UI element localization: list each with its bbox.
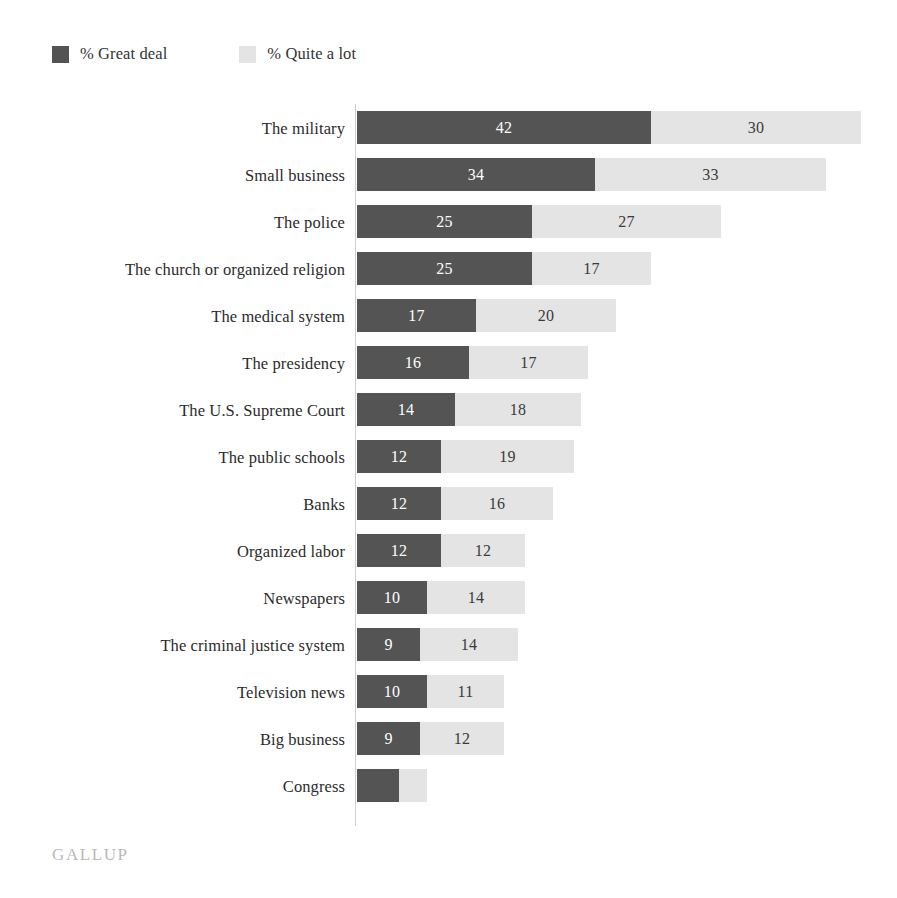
bar-value-quite-a-lot: 12: [475, 543, 491, 559]
bar-segment-great-deal: 14: [357, 393, 455, 426]
bar-value-great-deal: 9: [384, 731, 392, 747]
bar-value-quite-a-lot: 14: [461, 637, 477, 653]
legend-item-quite-a-lot: % Quite a lot: [239, 44, 356, 64]
bar-segment-great-deal: 12: [357, 440, 441, 473]
bar-row: The public schools1219: [0, 433, 897, 480]
bar-value-great-deal: 12: [391, 496, 407, 512]
bar-segment-quite-a-lot: 12: [441, 534, 525, 567]
bar-value-quite-a-lot: 33: [702, 167, 718, 183]
bar-value-quite-a-lot: 17: [583, 261, 599, 277]
bar-segment-great-deal: [357, 769, 399, 802]
bar-segment-great-deal: 12: [357, 534, 441, 567]
bar-value-quite-a-lot: 17: [520, 355, 536, 371]
category-label: The medical system: [55, 305, 345, 326]
bar-segment-quite-a-lot: 17: [532, 252, 651, 285]
bar-row: Television news1011: [0, 668, 897, 715]
bar-segment-great-deal: 10: [357, 675, 427, 708]
bar-segment-great-deal: 9: [357, 628, 420, 661]
category-label: The police: [55, 211, 345, 232]
category-label: The criminal justice system: [55, 634, 345, 655]
bar-value-quite-a-lot: 16: [489, 496, 505, 512]
bar-segment-quite-a-lot: [399, 769, 427, 802]
bar-value-great-deal: 25: [436, 261, 452, 277]
bar-segment-quite-a-lot: 16: [441, 487, 553, 520]
bar-row: The medical system1720: [0, 292, 897, 339]
gallup-confidence-chart: % Great deal % Quite a lot The military4…: [0, 0, 897, 898]
category-label: Organized labor: [55, 540, 345, 561]
bar-segment-quite-a-lot: 30: [651, 111, 861, 144]
bar-row: The U.S. Supreme Court1418: [0, 386, 897, 433]
category-label: Big business: [55, 728, 345, 749]
bar-segment-quite-a-lot: 12: [420, 722, 504, 755]
bar-row: Big business912: [0, 715, 897, 762]
bar-segment-great-deal: 12: [357, 487, 441, 520]
bar-segment-great-deal: 10: [357, 581, 427, 614]
stacked-bar: 1720: [357, 299, 616, 332]
bar-value-quite-a-lot: 20: [538, 308, 554, 324]
stacked-bar: 914: [357, 628, 518, 661]
gallup-brand-label: GALLUP: [52, 845, 129, 865]
category-label: Congress: [55, 775, 345, 796]
bar-value-quite-a-lot: 18: [510, 402, 526, 418]
stacked-bar: 3433: [357, 158, 826, 191]
bar-segment-quite-a-lot: 14: [420, 628, 518, 661]
bar-value-quite-a-lot: 14: [468, 590, 484, 606]
bar-row: The police2527: [0, 198, 897, 245]
bar-value-quite-a-lot: 19: [499, 449, 515, 465]
bar-value-great-deal: 17: [408, 308, 424, 324]
bar-segment-great-deal: 34: [357, 158, 595, 191]
bar-value-great-deal: 25: [436, 214, 452, 230]
bar-segment-great-deal: 16: [357, 346, 469, 379]
stacked-bar: 2527: [357, 205, 721, 238]
bar-value-great-deal: 12: [391, 543, 407, 559]
chart-legend: % Great deal % Quite a lot: [52, 44, 356, 64]
bar-segment-great-deal: 17: [357, 299, 476, 332]
bar-value-quite-a-lot: 30: [748, 120, 764, 136]
bar-segment-great-deal: 9: [357, 722, 420, 755]
bar-row: Small business3433: [0, 151, 897, 198]
bar-segment-quite-a-lot: 17: [469, 346, 588, 379]
category-label: The presidency: [55, 352, 345, 373]
stacked-bar: 1418: [357, 393, 581, 426]
category-label: Banks: [55, 493, 345, 514]
bar-row: The military4230: [0, 104, 897, 151]
bar-segment-quite-a-lot: 11: [427, 675, 504, 708]
bar-value-quite-a-lot: 27: [618, 214, 634, 230]
bar-segment-great-deal: 42: [357, 111, 651, 144]
stacked-bar: 1014: [357, 581, 525, 614]
bar-row: Banks1216: [0, 480, 897, 527]
category-label: Small business: [55, 164, 345, 185]
stacked-bar: 1212: [357, 534, 525, 567]
bar-row: Congress: [0, 762, 897, 809]
bar-value-quite-a-lot: 11: [458, 684, 474, 700]
legend-swatch-great-deal-icon: [52, 46, 69, 63]
category-label: The U.S. Supreme Court: [55, 399, 345, 420]
bar-segment-quite-a-lot: 14: [427, 581, 525, 614]
bar-row: The criminal justice system914: [0, 621, 897, 668]
legend-label-quite-a-lot: % Quite a lot: [267, 44, 356, 64]
bar-value-great-deal: 9: [384, 637, 392, 653]
legend-swatch-quite-a-lot-icon: [239, 46, 256, 63]
bar-segment-quite-a-lot: 20: [476, 299, 616, 332]
category-label: The church or organized religion: [55, 258, 345, 279]
bar-segment-great-deal: 25: [357, 205, 532, 238]
bar-value-great-deal: 14: [398, 402, 414, 418]
bar-segment-quite-a-lot: 33: [595, 158, 826, 191]
legend-item-great-deal: % Great deal: [52, 44, 167, 64]
bar-row: The presidency1617: [0, 339, 897, 386]
bar-row: Newspapers1014: [0, 574, 897, 621]
stacked-bar: 1617: [357, 346, 588, 379]
bar-value-quite-a-lot: 12: [454, 731, 470, 747]
bar-row: Organized labor1212: [0, 527, 897, 574]
bar-segment-quite-a-lot: 19: [441, 440, 574, 473]
bar-value-great-deal: 34: [468, 167, 484, 183]
stacked-bar: 1219: [357, 440, 574, 473]
stacked-bar: 1011: [357, 675, 504, 708]
stacked-bar: 1216: [357, 487, 553, 520]
stacked-bar: [357, 769, 427, 802]
bar-value-great-deal: 10: [384, 684, 400, 700]
bar-segment-great-deal: 25: [357, 252, 532, 285]
bar-value-great-deal: 16: [405, 355, 421, 371]
bar-segment-quite-a-lot: 27: [532, 205, 721, 238]
category-label: Newspapers: [55, 587, 345, 608]
